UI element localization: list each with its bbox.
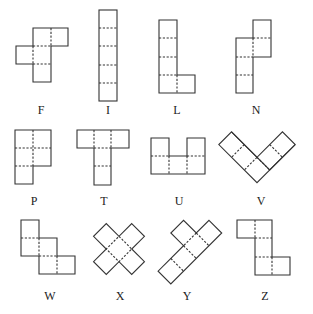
label-x: X xyxy=(116,289,125,303)
label-z: Z xyxy=(261,289,268,303)
pentomino-l: L xyxy=(159,20,195,117)
pentomino-diagram: F I L N P xyxy=(0,0,313,314)
label-v: V xyxy=(257,194,266,208)
label-u: U xyxy=(175,194,184,208)
pentomino-n: N xyxy=(236,20,271,117)
label-i: I xyxy=(106,103,110,117)
label-t: T xyxy=(100,194,108,208)
pentomino-w: W xyxy=(21,220,75,303)
pentomino-t: T xyxy=(77,130,129,208)
label-f: F xyxy=(38,103,45,117)
pentomino-u: U xyxy=(151,138,205,208)
pentomino-f: F xyxy=(16,28,68,117)
label-p: P xyxy=(31,194,38,208)
pentomino-i: I xyxy=(99,10,117,117)
pentomino-z: Z xyxy=(237,220,290,303)
label-y: Y xyxy=(183,289,192,303)
pentomino-x xyxy=(81,211,157,287)
label-w: W xyxy=(44,289,56,303)
label-l: L xyxy=(173,103,180,117)
label-n: N xyxy=(252,103,261,117)
pentomino-v-shape xyxy=(219,106,295,182)
pentomino-y xyxy=(145,208,221,284)
pentomino-v xyxy=(232,106,296,170)
pentomino-p: P xyxy=(15,130,51,208)
